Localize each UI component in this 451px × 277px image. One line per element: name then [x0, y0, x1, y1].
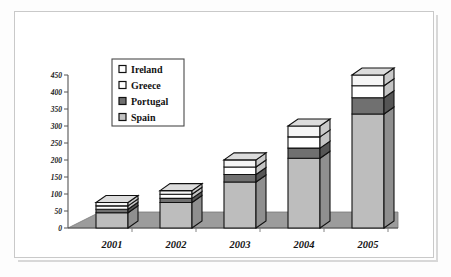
bar-segment-greece-2005[interactable] — [352, 86, 384, 98]
legend-swatch-ireland[interactable] — [119, 66, 126, 73]
x-tick-label-2003: 2003 — [229, 239, 251, 250]
y-tick-label: 100 — [51, 190, 63, 199]
y-tick-label: 250 — [50, 139, 63, 148]
x-tick-label-2001: 2001 — [101, 239, 123, 250]
bar-segment-spain-2001[interactable] — [96, 213, 128, 228]
stacked-column-chart-svg: 0 50 100 150 200 250 300 350 400 450 — [0, 0, 451, 277]
y-tick-label: 150 — [51, 173, 63, 182]
bar-group-2001[interactable] — [96, 196, 138, 229]
y-tick-label: 50 — [55, 207, 63, 216]
y-tick-label: 200 — [50, 156, 63, 165]
bar-segment-portugal-2004[interactable] — [288, 148, 320, 158]
bar-segment-ireland-2003[interactable] — [224, 160, 256, 167]
chart-legend[interactable]: Ireland Greece Portugal Spain — [112, 59, 184, 126]
bar-segment-greece-2004[interactable] — [288, 137, 320, 148]
y-tick-label: 300 — [50, 122, 63, 131]
y-axis-ticks — [64, 75, 68, 228]
bar-group-2005[interactable] — [352, 68, 394, 228]
bar-side-spain-2003 — [256, 175, 266, 228]
y-tick-label: 350 — [50, 105, 63, 114]
legend-label-portugal: Portugal — [131, 96, 168, 107]
x-axis — [68, 228, 398, 232]
legend-swatch-greece[interactable] — [119, 82, 126, 89]
bar-segment-spain-2005[interactable] — [352, 114, 384, 228]
legend-label-greece: Greece — [131, 80, 161, 91]
x-tick-label-2005: 2005 — [357, 239, 379, 250]
x-tick-label-2002: 2002 — [165, 239, 188, 250]
bar-group-2002[interactable] — [160, 184, 202, 228]
bar-segment-ireland-2002[interactable] — [160, 191, 192, 195]
bar-side-spain-2005 — [384, 107, 394, 228]
y-tick-label: 450 — [50, 71, 63, 80]
legend-swatch-portugal[interactable] — [119, 98, 126, 105]
y-tick-label: 400 — [50, 88, 63, 97]
bar-segment-ireland-2005[interactable] — [352, 75, 384, 86]
x-tick-label-2004: 2004 — [293, 239, 315, 250]
bar-segment-portugal-2002[interactable] — [160, 198, 192, 202]
bar-segment-portugal-2003[interactable] — [224, 175, 256, 183]
bar-group-2004[interactable] — [288, 119, 330, 228]
chart-figure: 0 50 100 150 200 250 300 350 400 450 — [0, 0, 451, 277]
legend-label-ireland: Ireland — [131, 64, 163, 75]
bar-segment-spain-2003[interactable] — [224, 182, 256, 228]
chart-plot-area: 0 50 100 150 200 250 300 350 400 450 — [0, 0, 451, 277]
bar-segment-spain-2002[interactable] — [160, 203, 192, 229]
bar-segment-spain-2004[interactable] — [288, 158, 320, 228]
y-tick-label: 0 — [58, 224, 62, 233]
bar-group-2003[interactable] — [224, 153, 266, 228]
legend-swatch-spain[interactable] — [119, 114, 126, 121]
legend-label-spain: Spain — [131, 112, 156, 123]
x-axis-labels: 2001 2002 2003 2004 2005 — [101, 239, 379, 250]
bar-segment-greece-2003[interactable] — [224, 167, 256, 175]
bar-side-spain-2004 — [320, 151, 330, 228]
y-axis: 0 50 100 150 200 250 300 350 400 450 — [50, 71, 68, 233]
bar-segment-greece-2002[interactable] — [160, 194, 192, 198]
bar-segment-ireland-2004[interactable] — [288, 126, 320, 137]
bar-segment-portugal-2005[interactable] — [352, 98, 384, 114]
